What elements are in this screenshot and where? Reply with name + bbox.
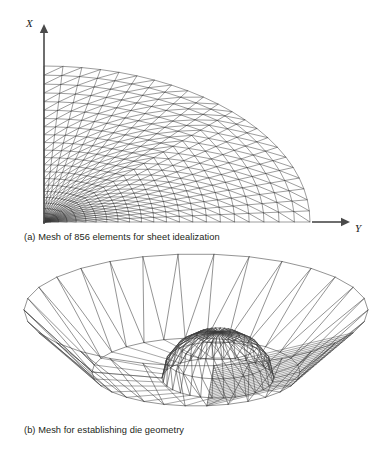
mesh-diagonal (196, 181, 212, 185)
mesh-diagonal (137, 99, 159, 103)
mesh-diagonal (262, 204, 278, 213)
mesh-diagonal (247, 205, 263, 213)
mesh-diagonal (62, 144, 74, 151)
mesh-diagonal (127, 88, 149, 92)
mesh-diagonal (173, 165, 189, 167)
mesh-diagonal (138, 202, 151, 204)
mesh-diagonal (129, 215, 141, 218)
mesh-diagonal (77, 78, 97, 85)
mesh-diagonal (105, 211, 117, 212)
die-wall-diagonal (248, 268, 311, 342)
mesh-diagonal (100, 166, 116, 171)
mesh-diagonal (87, 131, 102, 137)
mesh-diagonal (159, 115, 181, 117)
mesh-diagonal (278, 212, 294, 222)
mesh-diagonal (166, 176, 181, 178)
mesh-diagonal (172, 188, 187, 191)
mesh-diagonal (196, 103, 218, 104)
mesh-diagonal (66, 188, 75, 193)
mesh-diagonal (158, 164, 173, 165)
mesh-diagonal (209, 125, 227, 129)
caption-panel-a: (a) Mesh of 856 elements for sheet ideal… (24, 232, 220, 242)
mesh-diagonal (140, 210, 153, 213)
die-wall-diagonal (81, 268, 112, 352)
mesh-diagonal (179, 154, 195, 156)
mesh-diagonal (209, 178, 226, 182)
mesh-diagonal (195, 156, 212, 159)
mesh-diagonal (56, 193, 63, 198)
mesh-diagonal (108, 167, 125, 172)
mesh-diagonal (151, 175, 165, 176)
mesh-diagonal (174, 103, 197, 104)
mesh-diagonal (115, 76, 137, 81)
mesh-diagonal (55, 127, 68, 134)
mesh-diagonal (58, 103, 74, 111)
mesh-diagonal (44, 76, 62, 85)
mesh-diagonal (294, 212, 310, 222)
mesh-diagonal (176, 199, 191, 203)
mesh-diagonal (177, 205, 191, 210)
mesh-diagonal (95, 213, 106, 214)
mesh-diagonal (63, 187, 71, 192)
die-wall-diagonal (57, 343, 127, 397)
mesh-diagonal (126, 204, 139, 206)
mesh-diagonal (181, 178, 197, 181)
mesh-diagonal (279, 171, 299, 179)
mesh-radial-line (44, 76, 137, 222)
mesh-diagonal (174, 194, 189, 198)
die-wall-diagonal (266, 277, 336, 347)
mesh-diagonal (123, 197, 136, 198)
mesh-diagonal (44, 165, 51, 172)
die-dome-diagonal (192, 356, 193, 376)
die-wall-rib (143, 363, 164, 404)
die-dome-ring (162, 358, 274, 398)
mesh-diagonal (227, 142, 246, 146)
mesh-diagonal (70, 189, 80, 194)
die-dome-diagonal (257, 343, 266, 353)
mesh-diagonal (165, 91, 188, 92)
mesh-diagonal (140, 180, 154, 181)
die-wall-diagonal (291, 298, 364, 358)
mesh-diagonal (154, 217, 167, 222)
die-floor-rib (112, 352, 173, 366)
mesh-diagonal (164, 152, 179, 154)
mesh-diagonal (128, 211, 141, 214)
mesh-diagonal (162, 170, 177, 172)
mesh-diagonal (44, 127, 56, 135)
die-dome-diagonal (206, 359, 213, 379)
mesh-diagonal (233, 206, 249, 213)
die-wall-rib (266, 268, 312, 346)
die-wall-diagonal (110, 359, 164, 405)
mesh-diagonal (97, 72, 119, 78)
mesh-diagonal (189, 148, 206, 151)
mesh-radial-line (44, 200, 307, 222)
die-wall-rib (228, 257, 249, 340)
mesh-diagonal (158, 97, 180, 99)
mesh-diagonal (179, 211, 193, 216)
die-dome-diagonal (186, 339, 198, 354)
axis-label-y: Y (355, 222, 361, 234)
mesh-diagonal (199, 188, 215, 192)
mesh-diagonal (234, 214, 249, 222)
mesh-diagonal (85, 217, 96, 218)
mesh-diagonal (273, 161, 293, 168)
mesh-diagonal (44, 158, 52, 165)
mesh-diagonal (151, 204, 165, 207)
die-floor-rib (274, 372, 300, 378)
mesh-diagonal (162, 196, 176, 199)
die-mesh-group (24, 254, 368, 406)
die-wall-diagonal (207, 257, 249, 338)
mesh-diagonal (136, 197, 150, 199)
mesh-diagonal (191, 203, 206, 208)
mesh-diagonal (123, 175, 137, 176)
mesh-diagonal (132, 189, 146, 190)
die-wall-rib (110, 262, 144, 343)
mesh-diagonal (169, 182, 184, 185)
mesh-diagonal (106, 175, 123, 179)
sheet-mesh-svg (0, 0, 377, 250)
mesh-diagonal (245, 196, 262, 203)
mesh-diagonal (44, 84, 61, 93)
mesh-diagonal (177, 172, 193, 175)
mesh-diagonal (157, 186, 171, 188)
axis-arrow-y (341, 218, 350, 226)
